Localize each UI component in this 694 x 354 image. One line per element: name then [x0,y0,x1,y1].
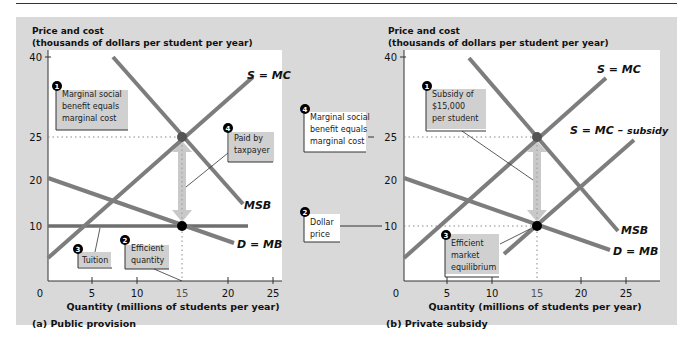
svg-text:4: 4 [226,125,231,133]
left-equilibrium-point [177,221,187,231]
svg-text:4: 4 [303,106,308,114]
left-xlabel: Quantity (millions of students per year) [66,301,279,312]
right-ytick-25: 25 [384,132,397,143]
left-panel-label: (a) Public provision [32,318,136,329]
svg-text:1: 1 [425,83,430,91]
right-xtick-20: 20 [575,288,588,299]
left-ylabel-sub: (thousands of dollars per student per ye… [32,38,253,48]
svg-text:2: 2 [303,209,308,217]
right-label-dmb: D = MB [613,245,658,258]
svg-text:Marginal social: Marginal social [62,90,122,99]
left-xtick-20: 20 [222,288,235,299]
left-xtick-10: 10 [131,288,144,299]
left-xtick-0: 0 [37,288,43,299]
svg-text:benefit equals: benefit equals [62,102,119,111]
svg-text:quantity: quantity [131,256,165,265]
svg-text:marginal cost: marginal cost [62,114,116,123]
svg-text:Paid by: Paid by [234,134,263,143]
right-xlabel: Quantity (millions of students per year) [428,301,641,312]
right-xtick-5: 5 [444,288,450,299]
svg-text:2: 2 [123,237,128,245]
left-ytick-40: 40 [29,52,42,63]
left-msb-mc-point [177,132,187,142]
svg-text:taxpayer: taxpayer [234,146,270,155]
left-ytick-20: 20 [29,175,42,186]
svg-text:per student: per student [432,114,478,123]
left-xtick-25: 25 [267,288,280,299]
right-label-smc-subsidy: S = MC – subsidy [570,124,669,137]
svg-text:Efficient: Efficient [451,239,484,248]
right-msb-mc-point [532,132,542,142]
left-ytick-10: 10 [29,221,42,232]
right-xtick-25: 25 [620,288,633,299]
svg-text:3: 3 [76,246,81,254]
right-ytick-40: 40 [384,52,397,63]
svg-text:marginal cost: marginal cost [310,137,364,146]
left-ylabel: Price and cost [32,26,105,36]
svg-text:Subsidy of: Subsidy of [432,90,474,99]
left-xtick-15: 15 [176,288,189,299]
svg-text:Dollar: Dollar [310,218,334,227]
svg-text:Tuition: Tuition [81,256,108,265]
right-ylabel: Price and cost [388,26,461,36]
svg-text:1: 1 [55,83,60,91]
left-ytick-25: 25 [29,132,42,143]
right-equilibrium-point [532,221,542,231]
svg-text:benefit equals: benefit equals [310,125,367,134]
right-xtick-0: 0 [393,288,399,299]
right-xtick-10: 10 [486,288,499,299]
right-ytick-20: 20 [384,175,397,186]
left-xtick-5: 5 [89,288,95,299]
svg-text:market: market [451,251,479,260]
svg-text:$15,000: $15,000 [432,102,465,111]
right-label-msb: MSB [621,224,648,237]
svg-text:Marginal social: Marginal social [310,113,370,122]
right-ytick-10: 10 [384,221,397,232]
left-label-msb: MSB [244,199,271,212]
left-label-dmb: D = MB [237,238,282,251]
left-label-smc: S = MC [247,69,291,82]
svg-text:equilibrium: equilibrium [451,263,496,272]
right-ylabel-sub: (thousands of dollars per student per ye… [388,38,609,48]
right-xtick-15: 15 [531,288,544,299]
svg-text:price: price [310,230,330,239]
svg-text:3: 3 [444,232,449,240]
right-label-smc: S = MC [597,63,641,76]
svg-text:Efficient: Efficient [131,244,164,253]
right-panel-label: (b) Private subsidy [386,318,489,329]
figure: Price and cost (thousands of dollars per… [0,0,694,354]
